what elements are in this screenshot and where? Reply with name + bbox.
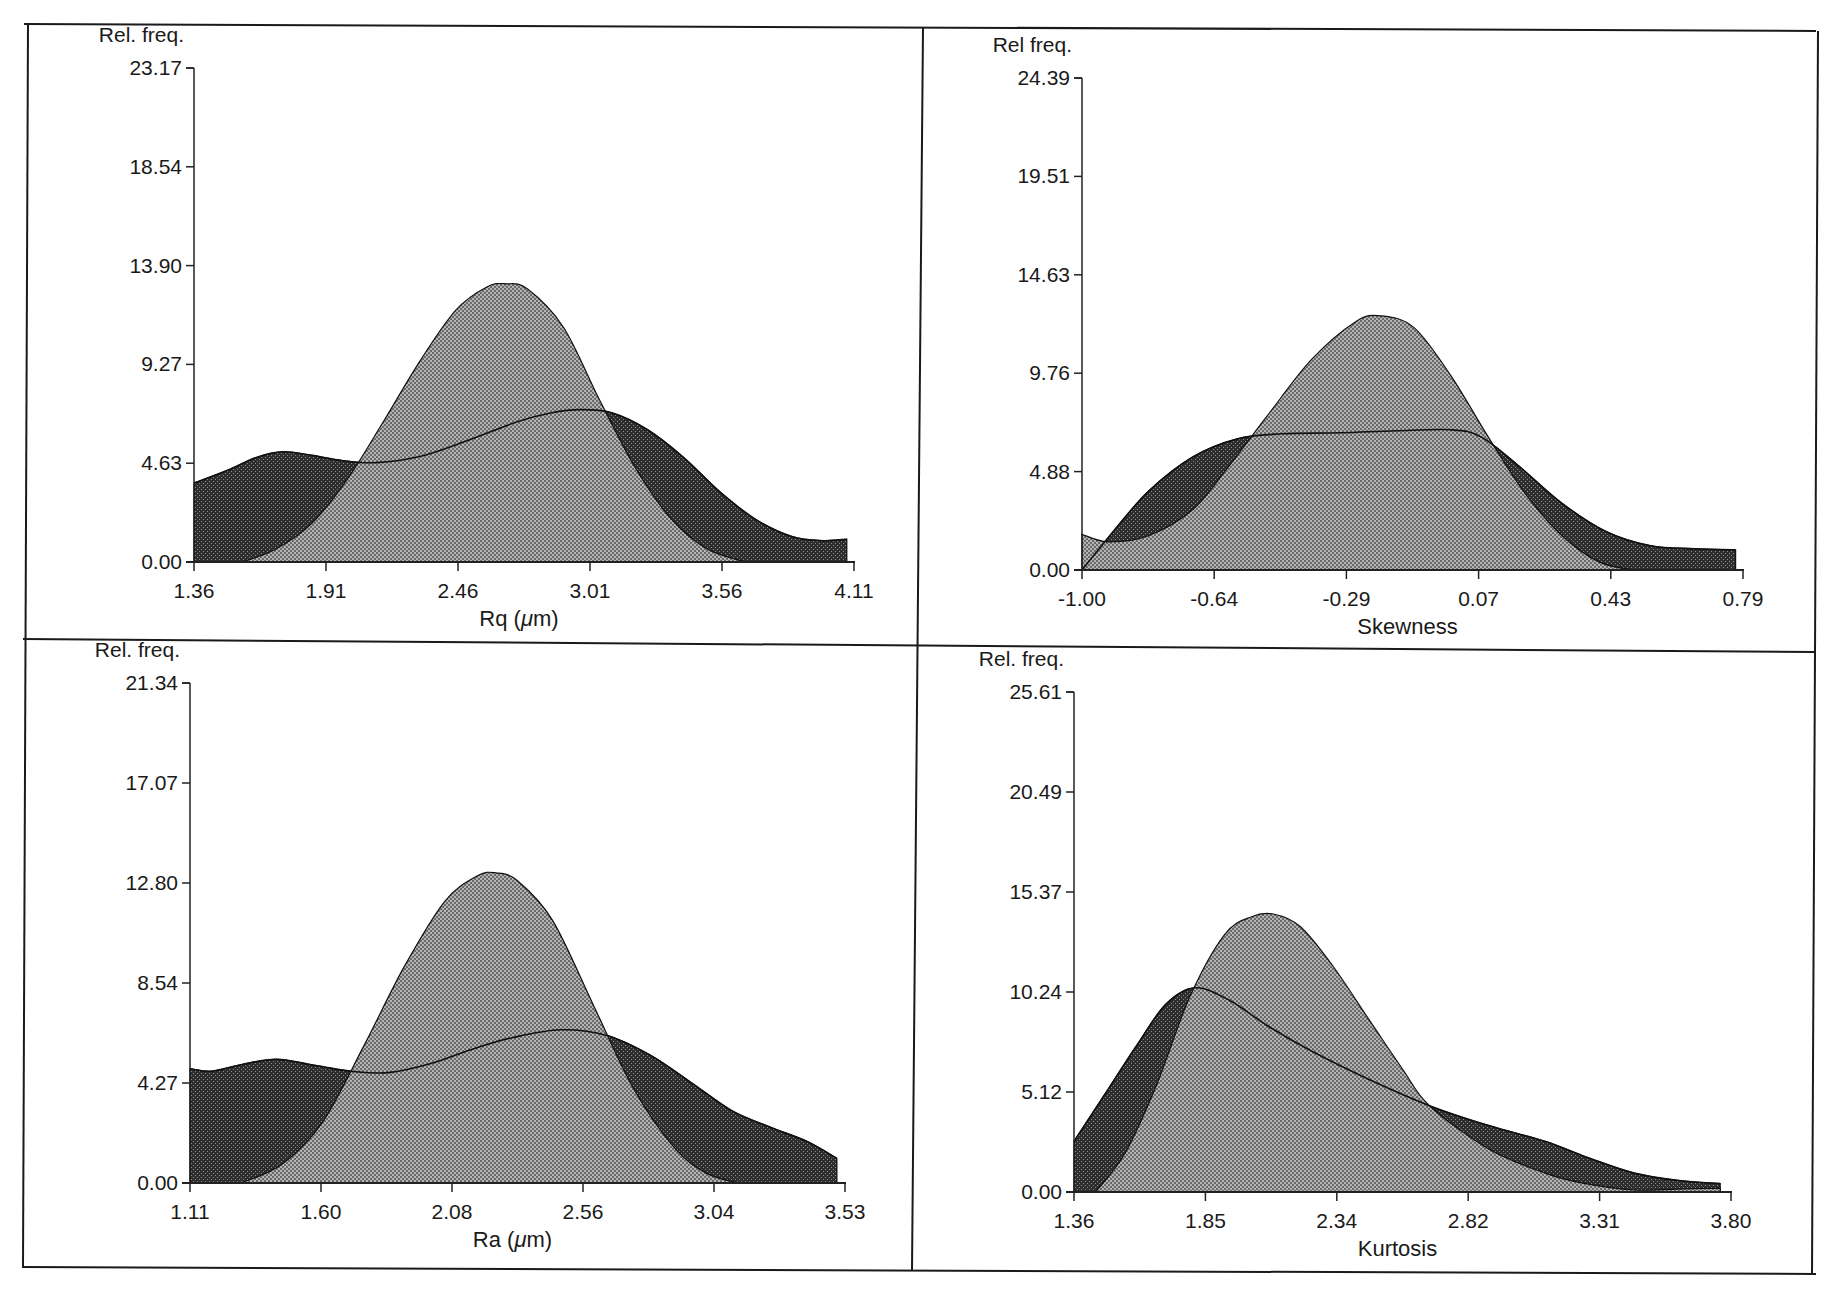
kurtosis-x-axis-label: Kurtosis bbox=[1358, 1236, 1437, 1261]
panel-ra: 0.004.278.5412.8017.0721.341.111.602.082… bbox=[95, 638, 866, 1252]
x-tick-label: 3.53 bbox=[825, 1200, 866, 1223]
x-tick-label: 2.46 bbox=[438, 579, 479, 602]
x-tick-label: -0.29 bbox=[1322, 587, 1370, 610]
x-tick-label: 2.08 bbox=[432, 1200, 473, 1223]
x-tick-label: 0.79 bbox=[1723, 587, 1764, 610]
x-tick-label: 1.11 bbox=[170, 1200, 209, 1223]
y-tick-label: 4.63 bbox=[141, 451, 182, 474]
y-tick-label: 8.54 bbox=[137, 971, 178, 994]
skewness-x-axis-label: Skewness bbox=[1357, 614, 1457, 639]
y-tick-label: 20.49 bbox=[1009, 780, 1062, 803]
figure: 0.004.639.2713.9018.5423.171.361.912.463… bbox=[0, 0, 1825, 1290]
x-tick-label: 2.56 bbox=[563, 1200, 604, 1223]
x-tick-label: 3.56 bbox=[702, 579, 743, 602]
y-tick-label: 5.12 bbox=[1021, 1080, 1062, 1103]
frame-left bbox=[23, 24, 28, 1267]
ra-light-area bbox=[241, 872, 739, 1183]
x-tick-label: 3.31 bbox=[1579, 1209, 1620, 1232]
y-tick-label: 10.24 bbox=[1009, 980, 1062, 1003]
panel-rq: 0.004.639.2713.9018.5423.171.361.912.463… bbox=[99, 23, 874, 631]
rq-y-axis-label: Rel. freq. bbox=[99, 23, 184, 46]
x-tick-label: 3.80 bbox=[1711, 1209, 1752, 1232]
y-tick-label: 14.63 bbox=[1017, 263, 1070, 286]
y-tick-label: 17.07 bbox=[125, 771, 178, 794]
y-tick-label: 21.34 bbox=[125, 671, 178, 694]
y-tick-label: 24.39 bbox=[1017, 66, 1070, 89]
y-tick-label: 19.51 bbox=[1017, 164, 1070, 187]
x-tick-label: -0.64 bbox=[1190, 587, 1238, 610]
rq-light-area bbox=[242, 283, 746, 562]
ra-plot-area bbox=[190, 872, 837, 1183]
frame-top bbox=[24, 24, 1816, 31]
frame-divider-vertical bbox=[912, 28, 923, 1270]
y-tick-label: 23.17 bbox=[129, 56, 182, 79]
y-tick-label: 0.00 bbox=[141, 550, 182, 573]
skewness-plot-area bbox=[1082, 315, 1736, 570]
y-tick-label: 25.61 bbox=[1009, 680, 1062, 703]
x-tick-label: 4.11 bbox=[834, 579, 873, 602]
y-tick-label: 0.00 bbox=[1029, 558, 1070, 581]
rq-x-axis-label: Rq (μm) bbox=[479, 606, 558, 631]
x-tick-label: 1.36 bbox=[174, 579, 215, 602]
y-tick-label: 4.27 bbox=[137, 1071, 178, 1094]
x-tick-label: 0.43 bbox=[1590, 587, 1631, 610]
x-tick-label: -1.00 bbox=[1058, 587, 1106, 610]
frame-bottom bbox=[22, 1267, 1816, 1274]
ra-x-axis-label: Ra (μm) bbox=[473, 1227, 552, 1252]
panel-skewness: 0.004.889.7614.6319.5124.39-1.00-0.64-0.… bbox=[993, 33, 1764, 639]
y-tick-label: 12.80 bbox=[125, 871, 178, 894]
skewness-y-axis-label: Rel freq. bbox=[993, 33, 1072, 56]
y-tick-label: 15.37 bbox=[1009, 880, 1062, 903]
x-tick-label: 2.34 bbox=[1316, 1209, 1357, 1232]
ra-y-axis-label: Rel. freq. bbox=[95, 638, 180, 661]
y-tick-label: 9.27 bbox=[141, 352, 182, 375]
skewness-light-area bbox=[1082, 315, 1632, 570]
x-tick-label: 1.60 bbox=[301, 1200, 342, 1223]
kurtosis-light-area bbox=[1096, 913, 1721, 1192]
x-tick-label: 3.04 bbox=[694, 1200, 735, 1223]
rq-plot-area bbox=[194, 283, 847, 562]
panel-kurtosis: 0.005.1210.2415.3720.4925.611.361.852.34… bbox=[979, 647, 1752, 1261]
y-tick-label: 4.88 bbox=[1029, 460, 1070, 483]
x-tick-label: 1.91 bbox=[306, 579, 347, 602]
y-tick-label: 18.54 bbox=[129, 155, 182, 178]
x-tick-label: 1.36 bbox=[1054, 1209, 1095, 1232]
y-tick-label: 13.90 bbox=[129, 254, 182, 277]
y-tick-label: 0.00 bbox=[137, 1171, 178, 1194]
x-tick-label: 2.82 bbox=[1448, 1209, 1489, 1232]
figure-canvas: 0.004.639.2713.9018.5423.171.361.912.463… bbox=[0, 0, 1825, 1290]
x-tick-label: 3.01 bbox=[570, 579, 611, 602]
kurtosis-plot-area bbox=[1074, 913, 1720, 1192]
x-tick-label: 1.85 bbox=[1185, 1209, 1226, 1232]
y-tick-label: 9.76 bbox=[1029, 361, 1070, 384]
y-tick-label: 0.00 bbox=[1021, 1180, 1062, 1203]
kurtosis-y-axis-label: Rel. freq. bbox=[979, 647, 1064, 670]
x-tick-label: 0.07 bbox=[1458, 587, 1499, 610]
